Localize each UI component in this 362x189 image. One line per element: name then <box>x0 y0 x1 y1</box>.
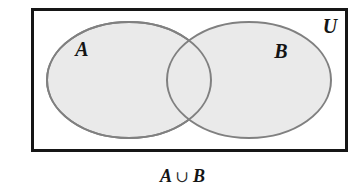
caption-left-operand: A <box>159 166 172 186</box>
universal-set-label: U <box>323 15 339 37</box>
set-b-label: B <box>273 40 287 62</box>
set-b-ellipse <box>167 22 331 138</box>
caption-union-operator-icon: ∪ <box>175 168 188 185</box>
venn-diagram-canvas: A B U A ∪ B <box>0 0 362 189</box>
caption: A ∪ B <box>159 166 205 186</box>
set-a-label: A <box>73 38 88 60</box>
venn-diagram-figure: A B U A ∪ B <box>0 0 362 189</box>
caption-right-operand: B <box>192 166 205 186</box>
